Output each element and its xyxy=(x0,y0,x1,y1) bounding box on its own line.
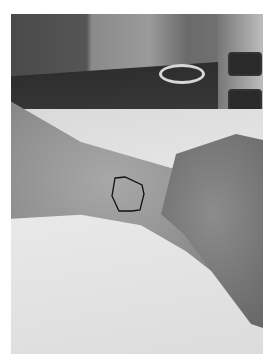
marked-region-outline xyxy=(11,14,263,354)
clinical-photo xyxy=(11,14,263,354)
